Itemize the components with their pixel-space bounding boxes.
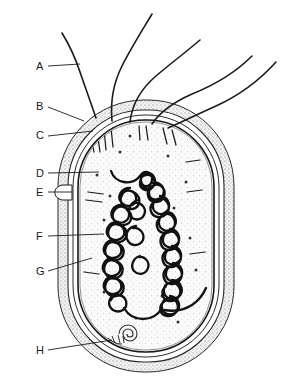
label-B[interactable]: B [36, 100, 44, 112]
e-pointer-bracket [55, 185, 72, 200]
ribosome-12 [177, 321, 180, 324]
ribosome-4 [185, 181, 188, 184]
ribosome-16 [129, 135, 132, 138]
flagellum-1 [62, 33, 96, 118]
e-pointer-shape [55, 185, 72, 200]
label-F[interactable]: F [36, 230, 43, 242]
ribosome-5 [103, 219, 106, 222]
diagram-canvas: ABCDEFGH [0, 0, 292, 380]
leader-line-A [48, 64, 80, 66]
cytoplasm-region [80, 122, 212, 350]
label-letters-group: ABCDEFGH [36, 60, 45, 356]
ribosome-1 [119, 151, 122, 154]
bacterial-cell-diagram: ABCDEFGH [0, 0, 292, 380]
label-H[interactable]: H [36, 344, 44, 356]
cytoplasm-layer [80, 122, 212, 350]
ribosome-6 [173, 207, 176, 210]
label-C[interactable]: C [36, 129, 44, 141]
label-A[interactable]: A [36, 60, 44, 72]
label-E[interactable]: E [36, 186, 44, 198]
label-D[interactable]: D [36, 167, 44, 179]
ribosome-2 [167, 155, 170, 158]
ribosome-14 [109, 195, 112, 198]
ribosome-3 [96, 174, 99, 177]
ribosome-15 [195, 269, 198, 272]
label-G[interactable]: G [36, 265, 45, 277]
leader-line-B [48, 107, 84, 121]
ribosome-8 [189, 237, 192, 240]
